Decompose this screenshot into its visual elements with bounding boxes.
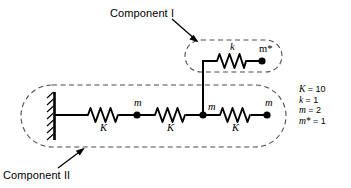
- fixed-wall: [47, 92, 55, 140]
- component-1-label: Component I: [110, 8, 174, 19]
- spring-label-K-1: K: [100, 123, 107, 134]
- legend-row-mstar: m* = 1: [299, 116, 326, 127]
- legend-row-K: K = 10: [299, 84, 326, 95]
- legend-row-m: m = 2: [299, 105, 326, 116]
- mass-dot-m2: [199, 111, 206, 118]
- mass-dot-mstar: [258, 57, 265, 64]
- spring-K-3: [220, 108, 250, 122]
- mass-label-mstar: m*: [259, 44, 272, 55]
- mass-dot-m1: [133, 111, 140, 118]
- spring-K-1: [88, 108, 118, 122]
- legend-name-K: K: [299, 84, 305, 94]
- spring-mass-system-figure: Component I Component II K K K k m m m m…: [0, 0, 351, 188]
- mass-dot-m3: [263, 111, 270, 118]
- legend-name-k: k: [299, 95, 303, 105]
- spring-k-small: [217, 54, 246, 68]
- legend-value-k: = 1: [306, 95, 319, 105]
- component-2-leader-arrow: [58, 148, 85, 168]
- legend-value-mstar: = 1: [313, 116, 326, 126]
- spring-label-k-small: k: [230, 42, 235, 53]
- mass-label-m3: m: [265, 98, 273, 109]
- component-1-leader-arrow: [172, 19, 199, 42]
- spring-label-K-3: K: [232, 123, 239, 134]
- legend-name-mstar: m*: [299, 116, 311, 126]
- spring-label-K-2: K: [167, 123, 174, 134]
- mass-label-m2: m: [208, 102, 216, 113]
- legend-name-m: m: [299, 105, 306, 115]
- legend-value-K: = 10: [308, 84, 326, 94]
- mass-label-m1: m: [134, 98, 142, 109]
- parameter-legend: K = 10 k = 1 m = 2 m* = 1: [299, 84, 326, 126]
- component-2-label: Component II: [3, 170, 70, 181]
- legend-row-k: k = 1: [299, 95, 326, 106]
- spring-K-2: [155, 108, 185, 122]
- legend-value-m: = 2: [308, 105, 321, 115]
